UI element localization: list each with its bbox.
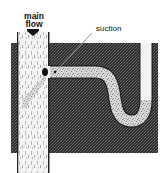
suction-point [42, 68, 48, 76]
main-pipe-wall-left [17, 32, 19, 173]
main-pipe-wall-right [48, 32, 50, 173]
suction-leader-dot [54, 71, 56, 73]
main-flow-label: main flow [20, 12, 48, 28]
suction-label: suction [96, 25, 121, 33]
main-flow-label-line2: flow [20, 20, 48, 28]
